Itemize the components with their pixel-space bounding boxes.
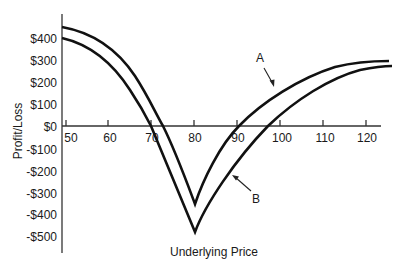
x-tick-label: 80 xyxy=(188,131,202,145)
y-tick-label: $400 xyxy=(30,32,57,46)
x-axis-title: Underlying Price xyxy=(170,245,258,259)
annotation-label-b: B xyxy=(252,192,260,206)
y-tick-labels: $400 $300 $200 $100 $0 -$100 -$200 -$300… xyxy=(26,32,57,244)
x-tick-label: 60 xyxy=(103,131,117,145)
y-tick-label: $0 xyxy=(44,120,58,134)
y-tick-label: -$400 xyxy=(26,208,57,222)
y-axis-title: Profit/Loss xyxy=(11,103,25,160)
profit-loss-chart: 50 60 70 80 90 100 110 120 $400 $300 $20… xyxy=(0,0,406,269)
x-tick-label: 100 xyxy=(272,131,292,145)
y-tick-label: -$100 xyxy=(26,143,57,157)
x-tick-labels: 50 60 70 80 90 100 110 120 xyxy=(64,131,377,145)
x-tick-label: 50 xyxy=(64,131,78,145)
y-tick-label: -$200 xyxy=(26,165,57,179)
annotation-arrow-b xyxy=(235,177,251,191)
annotation-label-a: A xyxy=(256,51,264,65)
x-ticks xyxy=(66,120,366,126)
y-tick-label: $100 xyxy=(30,98,57,112)
y-tick-label: -$300 xyxy=(26,187,57,201)
y-tick-label: $300 xyxy=(30,54,57,68)
x-tick-label: 120 xyxy=(357,131,377,145)
y-tick-label: $200 xyxy=(30,76,57,90)
x-tick-label: 110 xyxy=(315,131,334,145)
y-tick-label: -$500 xyxy=(26,230,57,244)
arrowhead-a-icon xyxy=(270,80,275,88)
